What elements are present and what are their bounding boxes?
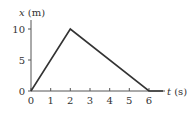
position-line [31,29,163,91]
x-tick-label: 3 [87,95,93,106]
x-tick-label: 0 [28,95,34,106]
x-tick-label: 6 [146,95,152,106]
x-axis-label: t (s) [167,86,187,97]
y-tick-labels: 10 5 0 [12,24,25,97]
position-time-chart: 10 5 0 0 1 2 3 4 5 6 x (m) t (s) [0,0,196,115]
y-tick-label: 0 [19,86,25,97]
x-tick-label: 2 [67,95,73,106]
y-tick-label: 10 [12,24,25,35]
x-tick-label: 1 [48,95,54,106]
y-tick-label: 5 [19,55,25,66]
x-tick-label: 5 [126,95,132,106]
y-axis-label: x (m) [19,7,45,18]
x-tick-labels: 0 1 2 3 4 5 6 [28,95,152,106]
x-tick-label: 4 [107,95,113,106]
